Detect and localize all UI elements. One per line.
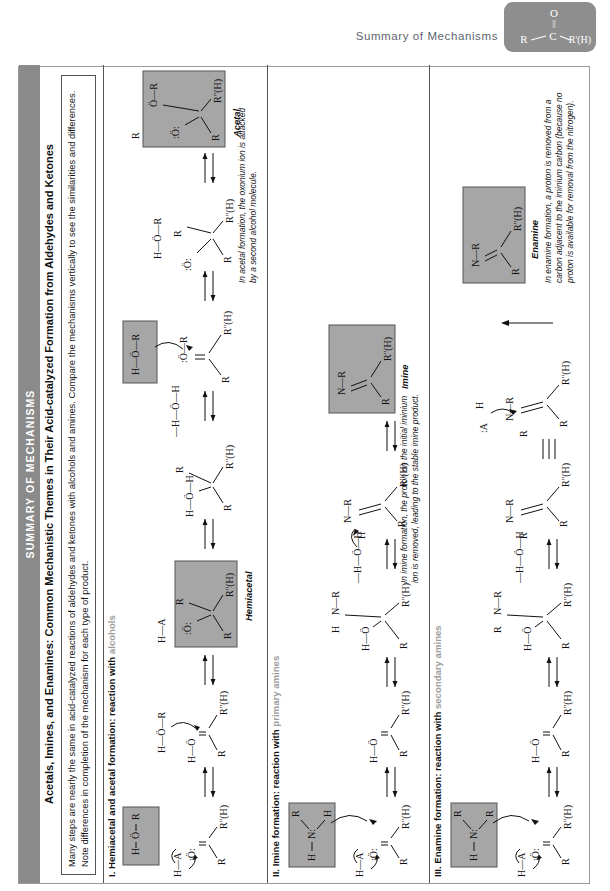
svg-text:R''(H): R''(H) <box>218 805 230 829</box>
svg-text:C: C <box>549 30 556 42</box>
svg-text:H—Ö: H—Ö <box>186 739 197 763</box>
section-imine: II. Imine formation: reaction with prima… <box>267 65 429 883</box>
svg-text:H: H <box>306 854 317 861</box>
section-reagent-1: alcohols <box>106 615 117 654</box>
svg-text:H: H <box>130 848 141 855</box>
svg-text:H: H <box>468 854 479 861</box>
section-number-1: I. <box>106 872 117 877</box>
section-title-2: Imine formation: reaction with <box>270 729 281 866</box>
svg-text:R''(H): R''(H) <box>562 583 574 607</box>
svg-text:N—R: N—R <box>336 371 347 395</box>
section-enamine: III. Enamine formation: reaction with se… <box>429 65 589 883</box>
svg-text:H—A: H—A <box>516 852 527 877</box>
svg-text:—H—Ö—H: —H—Ö—H <box>514 531 525 584</box>
svg-text:H—Ö—R: H—Ö—R <box>130 334 141 375</box>
svg-text:H—A: H—A <box>172 852 183 877</box>
enamine-product-label: Enamine <box>529 220 540 259</box>
svg-text:R''(H): R''(H) <box>218 691 230 715</box>
svg-text:R: R <box>518 532 529 539</box>
section-label-3: III. Enamine formation: reaction with se… <box>432 625 443 877</box>
svg-text:Ö—R: Ö—R <box>148 83 159 107</box>
svg-text:R: R <box>130 132 141 139</box>
svg-text:R: R <box>398 858 409 865</box>
svg-text:R: R <box>216 750 227 757</box>
svg-text:R''(H): R''(H) <box>400 805 412 829</box>
summary-main-title: Acetals, Imines, and Enamines: Common Me… <box>43 65 55 883</box>
intro-text-box: Many steps are nearly the same in acid-c… <box>61 75 96 875</box>
svg-text:R''(H): R''(H) <box>400 583 412 607</box>
svg-text:N—R: N—R <box>470 243 481 267</box>
svg-text:R: R <box>398 642 409 649</box>
svg-text::Ö:: :Ö: <box>182 622 193 635</box>
svg-text:R''(H): R''(H) <box>222 311 234 335</box>
svg-text:R''(H): R''(H) <box>224 573 236 597</box>
svg-text:R: R <box>210 134 221 141</box>
section-divider <box>267 65 268 883</box>
svg-text:R: R <box>380 398 391 405</box>
section-reagent-3: secondary amines <box>432 625 443 709</box>
svg-text:H: H <box>322 810 333 817</box>
svg-text:R: R <box>398 750 409 757</box>
svg-text:R''(H): R''(H) <box>224 445 236 469</box>
scheme-enamine: H N: R R R :Ö: R''(H) H—A <box>443 65 589 883</box>
svg-text:R: R <box>510 268 521 275</box>
svg-text:N—R: N—R <box>330 591 341 615</box>
svg-text:R: R <box>290 810 301 817</box>
svg-text:H—Ö—R: H—Ö—R <box>156 712 167 753</box>
svg-text:R: R <box>558 420 569 427</box>
svg-text:R: R <box>222 504 233 511</box>
svg-text:R: R <box>558 520 569 527</box>
svg-text:R: R <box>518 430 529 437</box>
section-label-2: II. Imine formation: reaction with prima… <box>270 656 281 877</box>
svg-text:R: R <box>452 810 463 817</box>
svg-text:R: R <box>220 376 231 383</box>
page-title: Summary of Mechanisms <box>356 30 498 42</box>
section-hemiacetal-acetal: I. Hemiacetal and acetal formation: reac… <box>103 65 265 883</box>
svg-text:N—R: N—R <box>342 499 353 523</box>
svg-text:R: R <box>484 810 495 817</box>
svg-text:R''(H): R''(H) <box>560 463 572 487</box>
svg-text:R''(H): R''(H) <box>400 691 412 715</box>
section-divider <box>103 65 104 883</box>
svg-text::Ö:: :Ö: <box>182 258 193 271</box>
svg-text:R''(H): R''(H) <box>562 691 574 715</box>
svg-text:H—A: H—A <box>354 852 365 877</box>
hemiacetal-product-label: Hemiacetal <box>243 571 254 621</box>
svg-text:R''(H): R''(H) <box>560 361 572 385</box>
svg-text:R: R <box>174 598 185 605</box>
svg-text:H—A: H—A <box>156 618 167 643</box>
svg-text::Ö—R: :Ö—R <box>178 336 189 363</box>
scheme-imine: H N: R H R :Ö: R''(H) H—A <box>281 65 427 883</box>
page-body: SUMMARY OF MECHANISMS Acetals, Imines, a… <box>18 66 590 884</box>
svg-text:H—Ö—H: H—Ö—H <box>184 475 195 517</box>
section-title-3: Enamine formation: reaction with <box>432 712 443 864</box>
carbonyl-structure-icon: O || C R R'(H) <box>504 2 596 52</box>
svg-text:R''(H): R''(H) <box>562 805 574 829</box>
svg-text:N:: N: <box>468 829 479 839</box>
note-acetal: In acetal formation, the oxonium ion is … <box>237 107 259 283</box>
svg-text:R: R <box>222 632 233 639</box>
section-number-3: III. <box>432 866 443 877</box>
svg-text:Ö: Ö <box>130 832 141 839</box>
svg-text:R: R <box>560 642 571 649</box>
svg-text:H: H <box>330 626 341 633</box>
svg-text::Ö:: :Ö: <box>170 126 181 139</box>
scheme-hemiacetal-acetal: HÖR R :Ö: R''(H) H—A <box>117 65 263 883</box>
svg-text:N—R: N—R <box>492 591 503 615</box>
svg-text:H—Ö: H—Ö <box>530 739 541 763</box>
svg-text:R: R <box>216 858 227 865</box>
page-header: Summary of Mechanisms O || C R R'(H) <box>0 0 610 62</box>
note-imine: In imine formation, the proton on the in… <box>399 393 421 583</box>
svg-text:H—Ö: H—Ö <box>360 627 371 651</box>
svg-text:—H—Ö—H: —H—Ö—H <box>352 531 363 584</box>
svg-text:H—Ö: H—Ö <box>368 739 379 763</box>
section-number-2: II. <box>270 869 281 877</box>
svg-text:R: R <box>172 230 183 237</box>
svg-text:R: R <box>222 256 233 263</box>
svg-text:||: || <box>552 18 556 28</box>
svg-text:R: R <box>174 466 185 473</box>
svg-text:R''(H): R''(H) <box>382 337 394 361</box>
svg-text:R: R <box>560 750 571 757</box>
svg-text:H—Ö—R: H—Ö—R <box>152 218 163 259</box>
svg-text:—H—Ö—H: —H—Ö—H <box>170 385 181 438</box>
